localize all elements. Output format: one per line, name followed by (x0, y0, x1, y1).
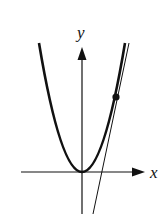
parabola-tangent-diagram: x y (0, 0, 165, 224)
point-of-tangency (112, 93, 119, 100)
x-axis-arrow-icon (132, 168, 145, 177)
y-axis-arrow-icon (78, 47, 87, 60)
x-axis-label: x (149, 163, 158, 182)
tangent-line (93, 43, 129, 214)
y-axis-label: y (75, 23, 85, 42)
